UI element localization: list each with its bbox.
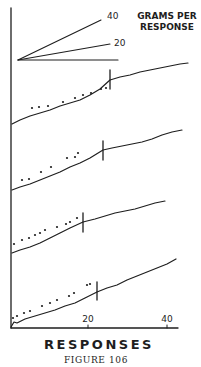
data-dot	[21, 179, 23, 181]
data-dot	[23, 312, 25, 314]
data-dot	[105, 87, 107, 89]
data-dot	[77, 152, 79, 154]
data-dot	[12, 317, 14, 319]
cumulative-curve	[12, 201, 165, 253]
x-axis-label: RESPONSES	[44, 337, 154, 352]
data-dot	[56, 299, 58, 301]
slope-legend-fan: 4020	[18, 11, 126, 60]
data-dot	[73, 292, 75, 294]
slope-label: 40	[107, 11, 119, 21]
slope-line	[18, 44, 110, 60]
data-dot	[28, 178, 30, 180]
data-dot	[100, 88, 102, 90]
figure-106: 4020 GRAMS PER RESPONSE 2040 RESPONSES F…	[0, 0, 201, 367]
data-dot	[31, 107, 33, 109]
legend-title-line-1: GRAMS PER	[137, 11, 197, 21]
data-dot	[89, 283, 91, 285]
x-axis-ticks: 2040	[82, 314, 173, 328]
axes	[11, 8, 178, 328]
data-dot	[41, 305, 43, 307]
legend-title-line-2: RESPONSE	[140, 22, 194, 32]
cumulative-curve	[12, 130, 182, 190]
data-dot	[82, 94, 84, 96]
data-dot	[76, 217, 78, 219]
data-dot	[69, 221, 71, 223]
record-2	[12, 130, 182, 190]
x-tick-label: 40	[161, 314, 173, 324]
data-dot	[40, 171, 42, 173]
data-dot	[74, 156, 76, 158]
data-dot	[66, 157, 68, 159]
data-dot	[86, 284, 88, 286]
figure-caption: FIGURE 106	[64, 355, 128, 365]
data-dot	[65, 223, 67, 225]
data-dot	[56, 226, 58, 228]
data-dot	[49, 302, 51, 304]
data-dot	[13, 243, 15, 245]
data-dot	[34, 234, 36, 236]
data-dot	[62, 101, 64, 103]
record-3	[12, 201, 165, 253]
data-dot	[90, 92, 92, 94]
cumulative-records	[11, 63, 188, 327]
cumulative-curve	[12, 63, 188, 124]
data-dot	[28, 237, 30, 239]
data-dot	[50, 166, 52, 168]
data-dot	[29, 310, 31, 312]
data-dot	[68, 295, 70, 297]
slope-label: 20	[114, 38, 126, 48]
data-dot	[21, 239, 23, 241]
x-tick-label: 20	[82, 314, 94, 324]
slope-line	[18, 20, 101, 60]
record-1	[12, 63, 188, 124]
data-dot	[16, 315, 18, 317]
data-dot	[44, 229, 46, 231]
data-dot	[38, 106, 40, 108]
data-dot	[74, 97, 76, 99]
data-dot	[39, 232, 41, 234]
data-dot	[47, 105, 49, 107]
